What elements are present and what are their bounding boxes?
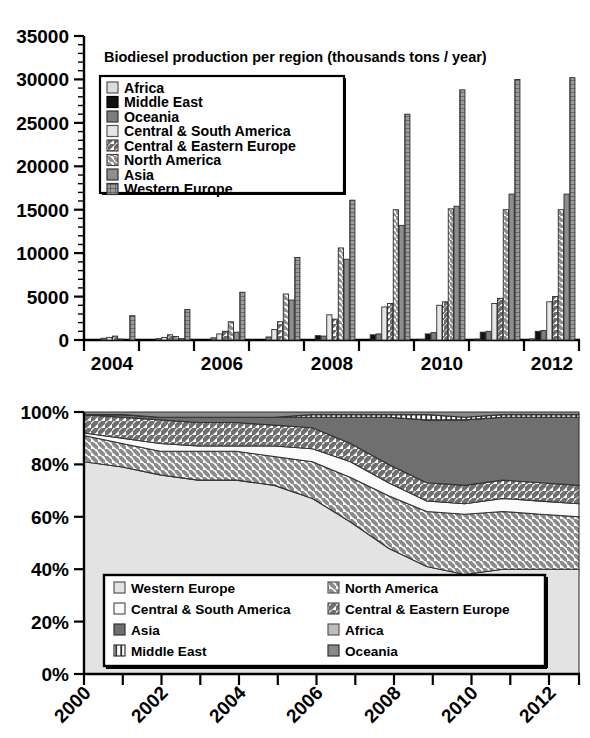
bar-north-america-2011	[503, 210, 508, 340]
y-tick-80pct: 80%	[31, 454, 69, 475]
legend-label-asia: Asia	[131, 623, 160, 638]
legend-item-north-america[interactable]: North America	[328, 581, 439, 596]
legend-label-africa: Africa	[345, 623, 384, 638]
bar-central-south-america-2012	[547, 302, 552, 340]
bar-middle-east-2010	[425, 334, 430, 340]
bar-chart-svg: 0 5000 10000 15000 20000 25000 30000 350…	[0, 0, 590, 372]
legend-label-oceania: Oceania	[345, 644, 398, 659]
bar-central-south-america-2004	[107, 337, 112, 340]
legend-item-central-eastern-europe[interactable]: Central & Eastern Europe	[328, 602, 510, 617]
x-tick-2004: 2004	[205, 682, 250, 727]
legend-swatch-icon	[114, 624, 125, 635]
bar-western-europe-2005	[185, 310, 190, 340]
legend-item-asia[interactable]: Asia	[114, 623, 160, 638]
bar-north-america-2005	[173, 337, 178, 340]
legend-item-oceania[interactable]: Oceania	[328, 644, 398, 659]
bar-oceania-2006	[211, 338, 216, 340]
legend-item-western-europe[interactable]: Western Europe	[114, 581, 235, 596]
area-chart-y-axis-labels: 0% 20% 40% 60% 80% 100%	[20, 402, 69, 685]
bar-africa-2011	[475, 339, 480, 340]
bar-central-south-america-2006	[217, 334, 222, 340]
legend-swatch-icon	[107, 97, 118, 108]
y-tick-30000: 30000	[16, 69, 69, 90]
bar-oceania-2005	[156, 339, 161, 340]
bar-western-europe-2012	[570, 78, 575, 340]
bar-middle-east-2011	[480, 332, 485, 340]
legend-swatch-icon	[107, 169, 118, 180]
bar-asia-2005	[179, 339, 184, 340]
bar-western-europe-2009	[405, 114, 410, 340]
bar-north-america-2012	[558, 210, 563, 340]
y-tick-5000: 5000	[27, 287, 69, 308]
x-tick-2010: 2010	[437, 682, 482, 727]
bar-central-eastern-europe-2011	[498, 298, 503, 340]
legend-item-western-europe[interactable]: Western Europe	[107, 181, 233, 197]
y-tick-20pct: 20%	[31, 612, 69, 633]
bar-central-eastern-europe-2012	[553, 297, 558, 340]
area-chart: 0% 20% 40% 60% 80% 100% 2000 2002 2004 2…	[0, 372, 590, 738]
area-chart-svg: 0% 20% 40% 60% 80% 100% 2000 2002 2004 2…	[0, 372, 590, 738]
y-tick-15000: 15000	[16, 200, 69, 221]
bar-asia-2008	[344, 259, 349, 340]
bar-central-eastern-europe-2006	[223, 331, 228, 340]
x-tick-2006: 2006	[201, 353, 243, 372]
legend-label-western-europe: Western Europe	[131, 581, 235, 596]
bar-chart-x-axis-labels: 2004 2006 2008 2010 2012	[91, 353, 573, 372]
y-tick-0pct: 0%	[42, 664, 70, 685]
legend-item-central-south-america[interactable]: Central & South America	[114, 602, 291, 617]
bar-asia-2007	[289, 300, 294, 340]
bar-western-europe-2007	[295, 257, 300, 340]
y-tick-60pct: 60%	[31, 507, 69, 528]
legend-swatch-icon	[107, 184, 118, 195]
bar-middle-east-2009	[370, 335, 375, 340]
bar-central-south-america-2008	[327, 315, 332, 340]
bar-central-eastern-europe-2007	[278, 322, 283, 340]
y-tick-20000: 20000	[16, 156, 69, 177]
bar-asia-2010	[454, 206, 459, 340]
y-tick-100pct: 100%	[20, 402, 69, 423]
bar-central-eastern-europe-2005	[168, 335, 173, 340]
legend-item-africa[interactable]: Africa	[328, 623, 384, 638]
bar-central-south-america-2009	[382, 307, 387, 340]
bar-western-europe-2006	[240, 292, 245, 340]
x-tick-2006: 2006	[282, 682, 327, 727]
y-tick-10000: 10000	[16, 243, 69, 264]
bar-central-south-america-2010	[437, 305, 442, 340]
area-chart-x-axis-labels: 2000 2002 2004 2006 2008 2010 2012	[50, 682, 560, 727]
bar-western-europe-2011	[515, 79, 520, 340]
legend-swatch-icon	[328, 624, 339, 635]
x-tick-2008: 2008	[311, 353, 353, 372]
x-tick-2012: 2012	[531, 353, 573, 372]
legend-swatch-icon	[328, 645, 339, 656]
bar-oceania-2008	[321, 336, 326, 340]
legend-label-western-europe: Western Europe	[124, 181, 233, 197]
x-tick-2004: 2004	[91, 353, 134, 372]
bar-western-europe-2004	[130, 316, 135, 340]
bar-oceania-2007	[266, 337, 271, 340]
bar-central-eastern-europe-2008	[333, 319, 338, 340]
bar-middle-east-2008	[315, 336, 320, 340]
y-tick-40pct: 40%	[31, 559, 69, 580]
bar-north-america-2006	[228, 322, 233, 340]
x-tick-2010: 2010	[421, 353, 463, 372]
bar-chart: 0 5000 10000 15000 20000 25000 30000 350…	[0, 0, 590, 372]
legend-swatch-icon	[114, 603, 125, 614]
x-tick-2012: 2012	[515, 682, 560, 727]
bar-oceania-2009	[376, 334, 381, 340]
bar-north-america-2004	[118, 339, 123, 340]
bar-central-south-america-2005	[162, 337, 167, 340]
legend-swatch-icon	[328, 603, 339, 614]
bar-central-south-america-2011	[492, 304, 497, 340]
bar-central-eastern-europe-2004	[113, 336, 118, 340]
area-chart-legend: Western Europe North America Central & S…	[104, 575, 548, 669]
legend-label-north-america: North America	[345, 581, 439, 596]
bar-western-europe-2008	[350, 200, 355, 340]
bar-north-america-2010	[448, 209, 453, 340]
bar-oceania-2004	[101, 338, 106, 340]
bar-africa-2010	[420, 339, 425, 340]
bar-north-america-2007	[283, 294, 288, 340]
legend-label-middle-east: Middle East	[131, 644, 207, 659]
y-tick-35000: 35000	[16, 26, 69, 47]
bar-western-europe-2010	[460, 90, 465, 340]
legend-label-central-south-america: Central & South America	[131, 602, 291, 617]
